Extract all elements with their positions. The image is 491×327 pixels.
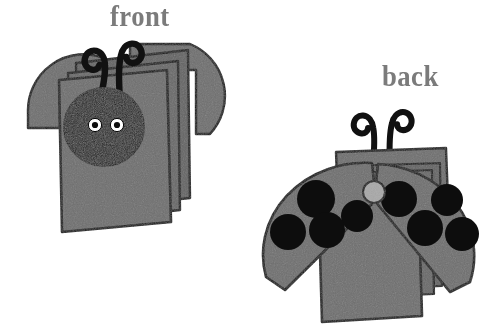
- front-ladybug-head: [64, 88, 144, 166]
- back-ladybug-card: [263, 112, 479, 322]
- front-left-eye: [88, 118, 101, 131]
- label-front: front: [110, 2, 170, 31]
- back-right-wing-spot-1: [381, 181, 417, 217]
- back-left-wing-spot-3: [270, 214, 306, 250]
- back-left-wing-spot-4: [309, 212, 345, 248]
- back-center-pivot-dot: [363, 181, 385, 203]
- front-right-eye: [110, 118, 123, 131]
- back-left-wing-spot-2: [341, 200, 373, 232]
- back-right-wing-spot-3: [407, 210, 443, 246]
- back-right-wing-spot-2: [431, 184, 463, 216]
- label-back: back: [382, 62, 439, 91]
- front-ladybug-card: [28, 43, 225, 232]
- illustration-canvas: front back: [0, 0, 491, 327]
- ladybug-illustration: [0, 0, 491, 327]
- back-right-wing-spot-4: [445, 217, 479, 251]
